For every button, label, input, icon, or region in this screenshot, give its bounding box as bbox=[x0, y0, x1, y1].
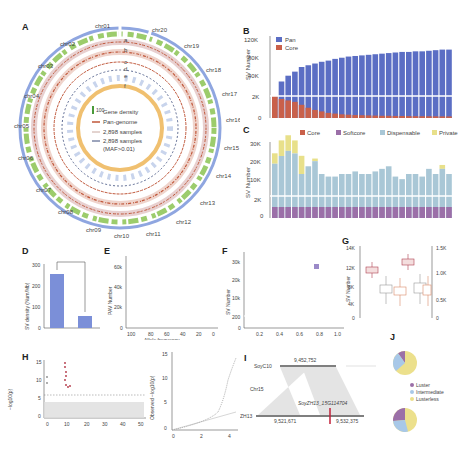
legend-lusterless: Lusterless bbox=[416, 396, 439, 402]
svg-text:0: 0 bbox=[238, 325, 241, 331]
bar bbox=[319, 207, 325, 218]
svg-text:0: 0 bbox=[46, 421, 49, 427]
synteny-diagram: SoyC10 9,452,752 Chr15 ZH13 SoyZH13_15G1… bbox=[240, 345, 380, 425]
svg-text:80K: 80K bbox=[248, 55, 259, 61]
svg-text:20: 20 bbox=[196, 331, 202, 337]
svg-text:20k: 20k bbox=[114, 304, 123, 310]
svg-text:4K: 4K bbox=[348, 301, 355, 307]
svg-text:0: 0 bbox=[212, 331, 215, 337]
bar bbox=[373, 54, 379, 118]
svg-text:50: 50 bbox=[138, 421, 144, 427]
svg-text:0.8: 0.8 bbox=[316, 331, 323, 337]
svg-text:8K: 8K bbox=[348, 284, 355, 290]
panel-e-repeat-coverage: E PAV Number 60k40k20k0 100806040200 All… bbox=[100, 240, 220, 340]
bar bbox=[312, 159, 318, 162]
panel-j-pies: J Luster Intermediate Lusterless bbox=[380, 330, 469, 440]
svg-text:40: 40 bbox=[120, 421, 126, 427]
bar bbox=[346, 57, 352, 118]
svg-text:Core: Core bbox=[285, 45, 299, 51]
chromosome-label: Chr15 bbox=[250, 386, 264, 392]
svg-text:40k: 40k bbox=[114, 284, 123, 290]
chr-label: chr01 bbox=[95, 23, 111, 29]
chr-label: chr19 bbox=[184, 43, 200, 49]
panel-label: J bbox=[390, 332, 395, 342]
svg-text:40K: 40K bbox=[248, 73, 259, 79]
chr-label: chr04 bbox=[24, 93, 40, 99]
legend-intermediate: Intermediate bbox=[416, 389, 444, 395]
bar bbox=[366, 55, 372, 118]
bar bbox=[272, 96, 278, 118]
svg-text:10: 10 bbox=[162, 375, 168, 381]
panel-label: E bbox=[104, 246, 110, 256]
circos-plot: 100 Gene density Pan-genome 2,898 sample… bbox=[0, 0, 240, 240]
bar bbox=[332, 207, 338, 218]
svg-text:0: 0 bbox=[172, 433, 175, 439]
bar bbox=[406, 207, 412, 218]
svg-text:0.5K: 0.5K bbox=[436, 297, 447, 303]
chr-label: chr06 bbox=[18, 155, 34, 161]
svg-text:0: 0 bbox=[164, 425, 167, 431]
sv-density-bar-chart: SV density (Num/Mb) 3002001000 bbox=[0, 240, 100, 340]
bar bbox=[285, 100, 291, 118]
svg-text:0: 0 bbox=[120, 325, 123, 331]
chr-label: chr09 bbox=[86, 227, 102, 233]
panel-h-manhattan: H −log10(p) 151050 01020304050 Observed … bbox=[0, 340, 240, 450]
bar bbox=[346, 207, 352, 218]
pan-core-bar-chart: SV Number 120K 80K 40K 2K 0 Pan Core bbox=[240, 0, 469, 120]
track-label-c: c bbox=[124, 59, 127, 65]
legend-pan-genome: Pan-genome bbox=[103, 119, 138, 125]
panel-d-sv-density: D SV density (Num/Mb) 3002001000 bbox=[0, 240, 100, 340]
haplotype-pie-charts: Luster Intermediate Lusterless bbox=[380, 330, 469, 440]
svg-text:Softcore: Softcore bbox=[343, 130, 366, 136]
svg-text:100: 100 bbox=[127, 331, 136, 337]
svg-text:0.4: 0.4 bbox=[276, 331, 283, 337]
bar bbox=[299, 105, 305, 118]
svg-text:5: 5 bbox=[164, 399, 167, 405]
svg-text:1.5K: 1.5K bbox=[436, 245, 447, 251]
panel-a-circos: A 100 Gene density Pan-genome bbox=[0, 0, 240, 240]
bar bbox=[326, 207, 332, 218]
svg-text:0: 0 bbox=[260, 213, 264, 219]
bar bbox=[292, 102, 298, 118]
svg-text:30k: 30k bbox=[232, 259, 241, 265]
bottom-end: 9,532,375 bbox=[336, 418, 358, 424]
svg-text:40: 40 bbox=[180, 331, 186, 337]
svg-text:100: 100 bbox=[32, 304, 41, 310]
svg-text:Core: Core bbox=[307, 130, 321, 136]
svg-text:0: 0 bbox=[38, 325, 41, 331]
panel-c-stacked-chart: C SV Number 30K 20K 10K 2K 0 Core Softco… bbox=[240, 118, 469, 238]
bar bbox=[339, 207, 345, 218]
bar bbox=[359, 55, 365, 118]
repeat-coverage-histogram: PAV Number 60k40k20k0 100806040200 Allel… bbox=[100, 240, 220, 340]
panel-g-boxplot: G SV Number 14K12K8K4K0 1.5K1.0K0.5K0 bbox=[340, 232, 469, 332]
bar bbox=[339, 58, 345, 118]
bar bbox=[319, 111, 325, 118]
svg-text:15: 15 bbox=[36, 359, 42, 365]
legend-luster: Luster bbox=[416, 382, 430, 388]
panel-f-allele-frequency: F SV Number 30k20k10k2000 0.20.40.60.81.… bbox=[220, 240, 345, 340]
panel-label: H bbox=[22, 352, 29, 362]
svg-text:30K: 30K bbox=[250, 141, 261, 147]
bar bbox=[306, 108, 312, 118]
panel-label: B bbox=[243, 26, 250, 36]
bar bbox=[326, 61, 332, 118]
svg-text:2K: 2K bbox=[252, 94, 259, 100]
bar bbox=[440, 50, 446, 118]
bar bbox=[433, 207, 439, 218]
svg-text:2,898 samples: 2,898 samples bbox=[103, 138, 142, 144]
svg-text:300: 300 bbox=[32, 262, 41, 268]
svg-text:Private: Private bbox=[439, 130, 458, 136]
svg-text:20k: 20k bbox=[232, 277, 241, 283]
bar bbox=[373, 207, 379, 218]
bar bbox=[406, 52, 412, 118]
chr-label: chr12 bbox=[176, 219, 192, 225]
sv-category-bar-chart: SV Number 30K 20K 10K 2K 0 Core Softcore… bbox=[240, 118, 469, 238]
svg-text:200: 200 bbox=[232, 314, 241, 320]
svg-text:Pan: Pan bbox=[285, 37, 296, 43]
svg-text:2K: 2K bbox=[254, 197, 261, 203]
bar bbox=[379, 54, 385, 118]
bar bbox=[393, 207, 399, 218]
gene-label: SoyZH13_15G114704 bbox=[298, 400, 348, 406]
svg-text:10K: 10K bbox=[250, 177, 261, 183]
svg-text:PAV Number: PAV Number bbox=[107, 286, 113, 315]
